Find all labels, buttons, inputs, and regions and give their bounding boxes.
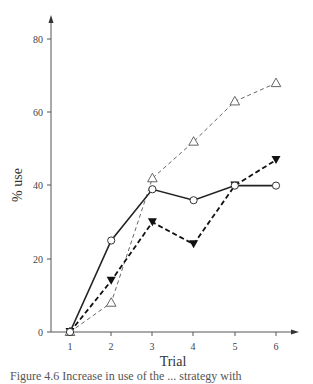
series-layer bbox=[65, 78, 281, 336]
open-circle-marker bbox=[190, 197, 197, 204]
open-triangle-marker bbox=[271, 78, 281, 87]
y-axis bbox=[47, 15, 54, 332]
filled-triangle-marker bbox=[189, 240, 198, 248]
y-tick-label: 20 bbox=[33, 254, 43, 265]
x-tick-label: 4 bbox=[191, 341, 196, 352]
figure-caption: Figure 4.6 Increase in use of the ... st… bbox=[10, 369, 242, 384]
open-triangle-marker bbox=[230, 96, 240, 105]
x-axis bbox=[51, 330, 299, 337]
open-circle-marker bbox=[108, 237, 115, 244]
x-tick-label: 3 bbox=[150, 341, 155, 352]
filled-triangle-marker bbox=[148, 218, 157, 226]
open-circle-marker bbox=[66, 328, 73, 335]
x-tick-label: 5 bbox=[233, 341, 238, 352]
series-filled-triangle-dashed bbox=[66, 156, 281, 336]
y-axis-title: % use bbox=[10, 168, 25, 202]
y-tick-label: 60 bbox=[33, 107, 43, 118]
y-tick-label: 0 bbox=[38, 327, 43, 338]
x-tick-label: 6 bbox=[274, 341, 279, 352]
open-circle-marker bbox=[231, 182, 238, 189]
open-triangle-marker bbox=[148, 173, 158, 182]
series-open-circle-solid bbox=[66, 182, 279, 336]
x-tick-label: 2 bbox=[109, 341, 114, 352]
y-tick-label: 40 bbox=[33, 180, 43, 191]
open-circle-marker bbox=[149, 186, 156, 193]
open-circle-marker bbox=[272, 182, 279, 189]
y-tick-label: 80 bbox=[33, 34, 43, 45]
filled-triangle-marker bbox=[107, 277, 116, 285]
x-axis-title: Trial bbox=[160, 354, 187, 369]
open-triangle-marker bbox=[106, 298, 116, 307]
x-tick-label: 1 bbox=[68, 341, 73, 352]
